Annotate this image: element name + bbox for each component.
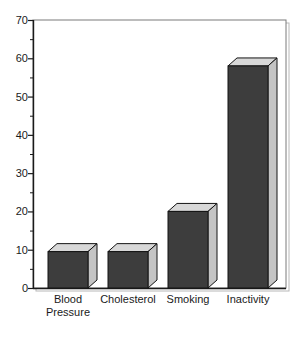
bar-side-face — [88, 244, 97, 288]
y-tick-label-50: 50 — [16, 91, 28, 103]
y-tick-label-70: 70 — [16, 14, 28, 26]
y-axis-ticks — [28, 21, 33, 289]
y-tick-label-10: 10 — [16, 244, 28, 256]
y-axis-tick-labels: 010203040506070 — [16, 14, 28, 294]
x-category-label-inactivity: Inactivity — [227, 293, 270, 305]
x-axis-category-labels: BloodPressureCholesterolSmokingInactivit… — [46, 293, 270, 318]
bar-blood-pressure — [48, 244, 97, 288]
y-tick-label-30: 30 — [16, 167, 28, 179]
bar-side-face — [268, 58, 277, 288]
y-tick-label-0: 0 — [22, 282, 28, 294]
bar-front-face — [48, 252, 88, 288]
bar-cholesterol — [108, 244, 157, 288]
bar-side-face — [148, 244, 157, 288]
y-tick-label-20: 20 — [16, 205, 28, 217]
x-category-label-blood-pressure: Pressure — [46, 306, 90, 318]
bar-inactivity — [228, 58, 277, 288]
bar-chart: 010203040506070 BloodPressureCholesterol… — [0, 0, 302, 337]
bar-front-face — [108, 252, 148, 288]
x-category-label-smoking: Smoking — [167, 293, 210, 305]
x-category-label-cholesterol: Cholesterol — [100, 293, 156, 305]
y-tick-label-40: 40 — [16, 129, 28, 141]
chart-canvas: 010203040506070 BloodPressureCholesterol… — [0, 0, 302, 337]
y-tick-label-60: 60 — [16, 52, 28, 64]
bar-front-face — [168, 211, 208, 288]
bar-front-face — [228, 66, 268, 288]
x-category-label-blood-pressure: Blood — [54, 293, 82, 305]
bar-side-face — [208, 203, 217, 288]
bar-smoking — [168, 203, 217, 288]
